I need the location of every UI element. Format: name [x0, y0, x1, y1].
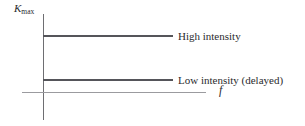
photoelectric-kmax-vs-frequency-chart: Kmax High intensity Low intensity (delay…	[0, 0, 305, 126]
x-axis-line	[22, 92, 206, 93]
y-axis-label-subscript: max	[21, 7, 34, 16]
series-label-high-intensity: High intensity	[178, 30, 241, 42]
series-line-high-intensity	[43, 35, 173, 37]
series-label-low-intensity: Low intensity (delayed)	[178, 74, 283, 86]
series-line-low-intensity	[43, 79, 173, 81]
y-axis-label: Kmax	[14, 2, 34, 14]
x-axis-label: f	[219, 83, 222, 98]
y-axis-line	[43, 14, 44, 120]
